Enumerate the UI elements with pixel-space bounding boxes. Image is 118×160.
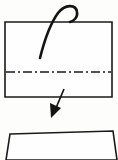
step-upper-group [5,6,112,97]
upper-sheet-rectangle [5,22,112,97]
step-lower-group [6,131,117,160]
transition-arrow-head [50,103,61,118]
diagram-canvas [0,0,118,160]
lower-sheet-quadrilateral [6,131,117,160]
origami-fold-diagram [0,0,118,160]
